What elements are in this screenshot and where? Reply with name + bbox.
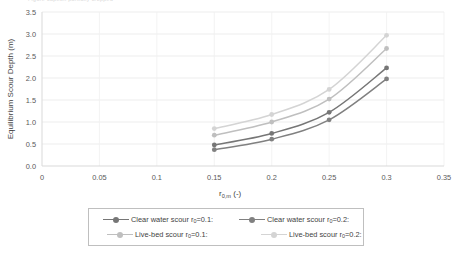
x-axis-tick-label: 0.35	[437, 173, 451, 182]
legend-marker-icon	[239, 215, 265, 225]
data-point	[269, 131, 274, 136]
y-axis-tick-label: 0.5	[26, 140, 36, 149]
legend-marker-icon	[261, 230, 287, 240]
x-axis-title-text: r0,m (-)	[219, 189, 242, 199]
data-point	[327, 97, 332, 102]
x-axis-tick-label: 0.05	[92, 173, 106, 182]
data-point	[212, 133, 217, 138]
legend-dot-icon	[113, 217, 120, 224]
legend-dot-icon	[117, 232, 124, 239]
chart-plot-area: 0.00.51.01.52.02.53.03.500.050.10.150.20…	[0, 0, 454, 200]
legend-dot-icon	[271, 232, 278, 239]
data-point	[269, 137, 274, 142]
data-point	[384, 46, 389, 51]
y-axis-tick-label: 1.0	[26, 118, 36, 127]
y-axis-tick-label: 3.0	[26, 30, 36, 39]
x-axis-tick-label: 0.1	[152, 173, 162, 182]
data-point	[212, 142, 217, 147]
x-axis-title: r0,m (-)	[219, 189, 242, 199]
data-point	[384, 65, 389, 70]
legend-marker-icon	[103, 215, 129, 225]
legend-item-live-bed-r0-0-2[interactable]: Live-bed scour r0=0.2:	[241, 230, 387, 240]
legend-item-label: Clear water scour r0=0.2:	[267, 215, 349, 225]
x-axis-tick-label: 0.3	[381, 173, 391, 182]
scour-depth-figure: Figure caption partially cropped 0.00.51…	[0, 0, 454, 254]
legend-item-clear-water-r0-0-1[interactable]: Clear water scour r0=0.1:	[93, 215, 237, 225]
data-point	[384, 33, 389, 38]
y-axis-tick-label: 1.5	[26, 96, 36, 105]
data-point	[327, 117, 332, 122]
data-point	[327, 110, 332, 115]
legend-dot-icon	[249, 217, 256, 224]
x-axis-tick-label: 0	[40, 173, 44, 182]
legend-item-label: Live-bed scour r0=0.2:	[289, 230, 362, 240]
x-axis-tick-label: 0.15	[207, 173, 221, 182]
data-point	[212, 147, 217, 152]
legend-marker-icon	[107, 230, 133, 240]
legend-item-clear-water-r0-0-2[interactable]: Clear water scour r0=0.2:	[237, 215, 365, 225]
y-axis-title: Equilibrium Scour Depth (m)	[6, 38, 15, 139]
y-axis-tick-label: 2.0	[26, 74, 36, 83]
chart-legend: Clear water scour r0=0.1: Clear water sc…	[88, 208, 364, 246]
legend-item-label: Clear water scour r0=0.1:	[131, 215, 213, 225]
x-axis-tick-label: 0.2	[267, 173, 277, 182]
data-point	[212, 126, 217, 131]
y-axis-tick-label: 3.5	[26, 8, 36, 17]
legend-row: Clear water scour r0=0.1: Clear water sc…	[93, 212, 359, 227]
legend-item-live-bed-r0-0-1[interactable]: Live-bed scour r0=0.1:	[93, 230, 241, 240]
data-point	[269, 120, 274, 125]
data-point	[269, 112, 274, 117]
legend-row: Live-bed scour r0=0.1: Live-bed scour r0…	[93, 227, 359, 242]
series-line	[214, 35, 386, 128]
y-axis-tick-label: 0.0	[26, 162, 36, 171]
legend-item-label: Live-bed scour r0=0.1:	[135, 230, 208, 240]
series-3	[212, 33, 389, 131]
series-line	[214, 68, 386, 145]
data-point	[327, 87, 332, 92]
y-axis-tick-label: 2.5	[26, 52, 36, 61]
line-chart: 0.00.51.01.52.02.53.03.500.050.10.150.20…	[0, 0, 454, 200]
x-axis-tick-label: 0.25	[322, 173, 336, 182]
data-point	[384, 76, 389, 81]
